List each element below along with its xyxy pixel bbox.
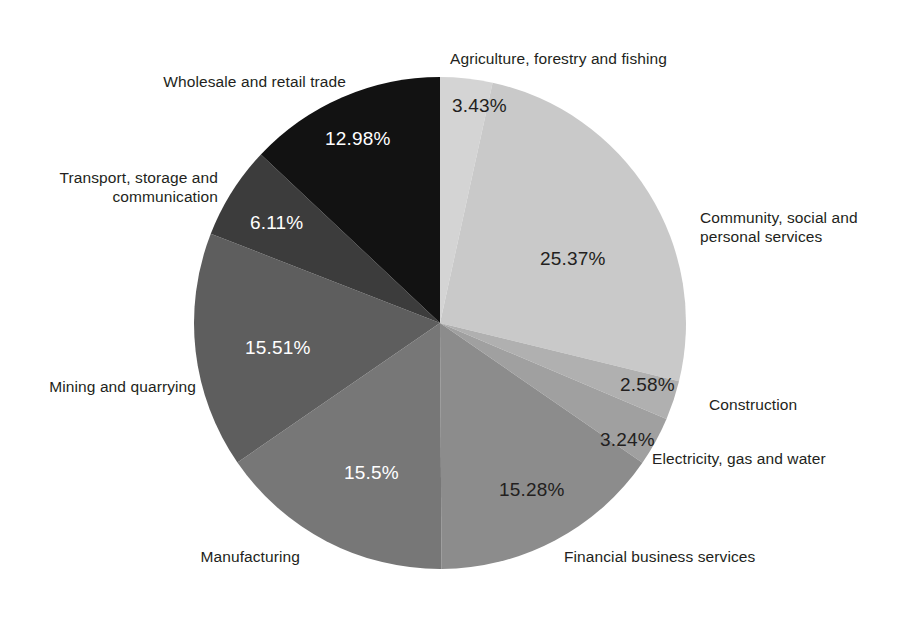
slice-value-agriculture: 3.43% xyxy=(452,95,507,117)
slice-label-electricity: Electricity, gas and water xyxy=(652,449,892,468)
slice-value-construction: 2.58% xyxy=(620,374,675,396)
slice-label-community: Community, social and personal services xyxy=(700,208,890,246)
slice-value-manufacturing: 15.5% xyxy=(344,462,399,484)
slice-label-transport: Transport, storage and communication xyxy=(28,168,218,206)
slice-label-agriculture: Agriculture, forestry and fishing xyxy=(450,49,750,68)
slice-value-mining: 15.51% xyxy=(245,337,311,359)
slice-label-wholesale: Wholesale and retail trade xyxy=(100,72,346,91)
pie-chart xyxy=(0,0,898,633)
slice-value-community: 25.37% xyxy=(540,248,606,270)
slice-value-transport: 6.11% xyxy=(250,212,303,234)
slice-label-financial: Financial business services xyxy=(564,547,854,566)
slice-label-mining: Mining and quarrying xyxy=(0,377,196,396)
slice-value-wholesale: 12.98% xyxy=(325,128,391,150)
chart-canvas: Agriculture, forestry and fishing Commun… xyxy=(0,0,898,633)
slice-value-electricity: 3.24% xyxy=(600,429,655,451)
pie-slices-group xyxy=(194,77,686,569)
slice-label-construction: Construction xyxy=(709,395,898,414)
slice-label-manufacturing: Manufacturing xyxy=(80,547,300,566)
slice-value-financial: 15.28% xyxy=(499,479,565,501)
